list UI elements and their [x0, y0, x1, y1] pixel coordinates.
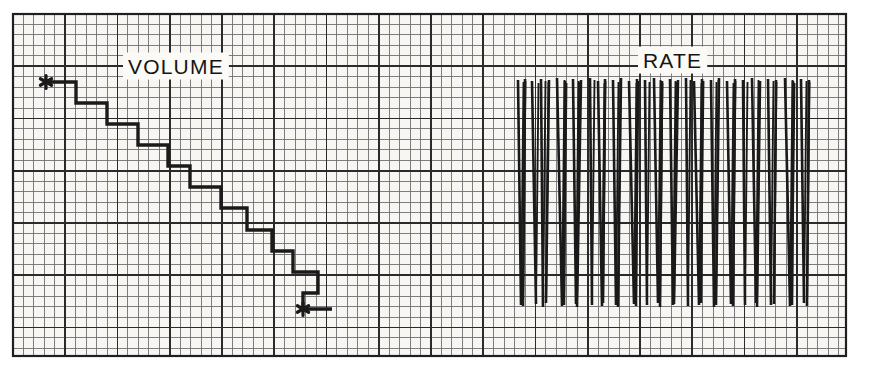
- chart-trace-svg: VOLUME RATE: [0, 0, 873, 384]
- rate-label: RATE: [638, 47, 707, 74]
- volume-label-text: VOLUME: [128, 55, 224, 78]
- volume-label: VOLUME: [123, 53, 229, 80]
- chart-recorder-paper: VOLUME RATE: [0, 0, 873, 384]
- rate-label-text: RATE: [643, 49, 702, 72]
